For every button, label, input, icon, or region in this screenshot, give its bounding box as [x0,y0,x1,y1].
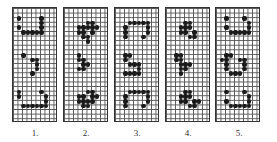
filled-cell [242,104,247,109]
filled-cell [174,58,179,63]
filled-cell [242,90,247,95]
filled-cell [192,104,197,109]
filled-cell [141,21,146,26]
filled-cell [183,67,188,72]
filled-cell [123,35,128,40]
panel-label-3: 3. [127,128,147,138]
filled-cell [95,94,100,99]
filled-cell [21,53,26,58]
panel-label-4: 4. [178,128,198,138]
filled-cell [30,58,35,63]
filled-cell [123,53,128,58]
filled-cell [81,30,86,35]
filled-cell [17,16,22,21]
filled-cell [224,25,229,30]
filled-cell [17,94,22,99]
filled-cell [242,67,247,72]
filled-cell [132,62,137,67]
grid-panel-5 [215,7,260,122]
filled-cell [132,71,137,76]
filled-cell [21,104,26,109]
filled-cell [229,53,234,58]
filled-cell [224,16,229,21]
filled-cell [192,35,197,40]
filled-cell [44,104,49,109]
filled-cell [188,62,193,67]
filled-cell [238,71,243,76]
filled-cell [44,99,49,104]
filled-cell [81,99,86,104]
filled-cell [39,30,44,35]
filled-cell [183,30,188,35]
filled-cell [123,58,128,63]
grid-panel-1 [12,7,57,122]
filled-cell [123,99,128,104]
filled-cell [17,25,22,30]
filled-cell [179,53,184,58]
filled-cell [247,99,252,104]
filled-cell [86,62,91,67]
filled-cell [233,30,238,35]
filled-cell [188,25,193,30]
filled-cell [141,104,146,109]
filled-cell [188,94,193,99]
filled-cell [39,104,44,109]
grid-panel-3 [114,7,159,122]
filled-cell [86,104,91,109]
filled-cell [30,30,35,35]
filled-cell [224,53,229,58]
filled-cell [123,104,128,109]
filled-cell [224,67,229,72]
filled-cell [123,30,128,35]
filled-cell [192,99,197,104]
filled-cell [90,30,95,35]
filled-cell [233,71,238,76]
filled-cell [137,71,142,76]
filled-cell [183,99,188,104]
filled-cell [81,104,86,109]
filled-cell [224,90,229,95]
filled-cell [146,30,151,35]
filled-cell [86,39,91,44]
panel-label-2: 2. [76,128,96,138]
filled-cell [242,30,247,35]
filled-cell [141,90,146,95]
filled-cell [192,30,197,35]
filled-cell [132,21,137,26]
filled-cell [197,99,202,104]
filled-cell [30,71,35,76]
grid-panel-2 [63,7,108,122]
filled-cell [123,71,128,76]
filled-cell [95,25,100,30]
panel-label-5: 5. [229,128,249,138]
filled-cell [146,99,151,104]
filled-cell [242,16,247,21]
filled-cell [233,104,238,109]
filled-cell [128,53,133,58]
filled-cell [174,53,179,58]
filled-cell [30,104,35,109]
grid-panel-4 [165,7,210,122]
filled-cell [179,71,184,76]
filled-cell [81,67,86,72]
filled-cell [141,35,146,40]
panel-label-1: 1. [25,128,45,138]
filled-cell [90,99,95,104]
filled-cell [247,30,252,35]
filled-cell [77,53,82,58]
filled-cell [39,90,44,95]
filled-cell [81,35,86,40]
filled-cell [247,104,252,109]
filled-cell [21,30,26,35]
filled-cell [224,99,229,104]
filled-cell [132,90,137,95]
